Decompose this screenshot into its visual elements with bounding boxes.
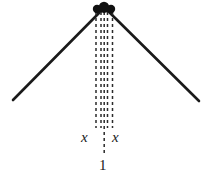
segment-label-x-left: x bbox=[81, 130, 88, 145]
base-length-label: 1 bbox=[99, 158, 107, 173]
apex-markers-group bbox=[93, 2, 115, 13]
rays-group bbox=[13, 11, 199, 101]
figure-container: ) x x 1 bbox=[0, 0, 202, 175]
left-ray bbox=[13, 11, 101, 100]
geometry-figure-svg bbox=[0, 0, 202, 175]
segment-label-x-right: x bbox=[112, 130, 119, 145]
right-ray bbox=[108, 11, 199, 101]
dashed-guides-group bbox=[96, 12, 113, 156]
